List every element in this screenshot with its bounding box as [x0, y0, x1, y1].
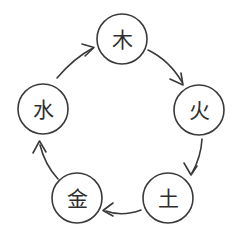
node-water-label: 水 — [33, 98, 54, 122]
node-water[interactable]: 水 — [18, 84, 68, 134]
arrow-fire-to-earth — [184, 139, 202, 175]
node-fire-label: 火 — [189, 99, 210, 123]
node-earth[interactable]: 土 — [143, 173, 193, 223]
node-wood-label: 木 — [112, 28, 133, 52]
node-fire[interactable]: 火 — [174, 85, 224, 135]
five-elements-cycle-diagram: 木 火 土 金 水 — [0, 0, 242, 247]
node-earth-label: 土 — [158, 187, 179, 211]
diagram-canvas: 木 火 土 金 水 — [0, 0, 242, 247]
node-wood[interactable]: 木 — [97, 14, 147, 64]
arrow-metal-to-water — [33, 141, 58, 179]
arrow-wood-to-fire — [148, 50, 183, 85]
node-metal-label: 金 — [67, 187, 88, 211]
arrow-water-to-wood — [57, 44, 94, 78]
arrow-earth-to-metal — [103, 203, 141, 216]
node-metal[interactable]: 金 — [52, 173, 102, 223]
